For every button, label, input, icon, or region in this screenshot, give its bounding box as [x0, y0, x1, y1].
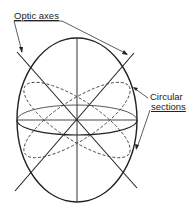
circular-leader-down [137, 110, 150, 148]
optic-axis-2 [15, 53, 134, 191]
optic-axes-leader-right [62, 21, 127, 54]
optic-axes-label: Optic axes [14, 11, 59, 21]
arrowhead-icon [122, 50, 128, 55]
arrowhead-icon [135, 144, 139, 150]
arrowhead-icon [19, 47, 23, 53]
circular-sections-label-line2: sections [151, 102, 186, 112]
